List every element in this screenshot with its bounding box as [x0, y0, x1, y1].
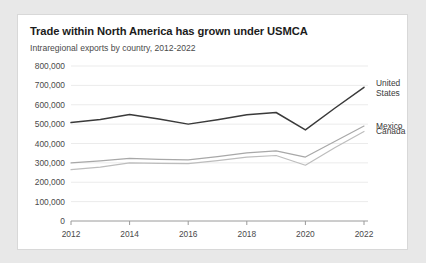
x-axis-tick-label: 2012 — [62, 229, 81, 239]
x-axis-tick-label: 2022 — [355, 229, 374, 239]
y-axis-tick-label: 800,000 — [35, 61, 66, 71]
series-label-united-states: States — [376, 88, 400, 98]
y-axis-tick-label: 100,000 — [35, 197, 66, 207]
series-label-united-states: United — [376, 78, 401, 88]
series-line-canada — [71, 131, 364, 169]
chart-plot-area: 0100,000200,000300,000400,000500,000600,… — [18, 15, 409, 251]
y-axis-tick-label: 200,000 — [35, 177, 66, 187]
x-axis-tick-label: 2014 — [120, 229, 139, 239]
y-axis-tick-label: 300,000 — [35, 158, 66, 168]
x-axis-tick-label: 2020 — [296, 229, 315, 239]
series-line-united-states — [71, 87, 364, 130]
x-axis-tick-label: 2018 — [237, 229, 256, 239]
y-axis-tick-label: 600,000 — [35, 100, 66, 110]
series-label-canada: Canada — [376, 126, 406, 136]
x-axis-tick-label: 2016 — [179, 229, 198, 239]
series-line-mexico — [71, 126, 364, 163]
y-axis-tick-label: 0 — [60, 216, 65, 226]
y-axis-tick-label: 400,000 — [35, 139, 66, 149]
y-axis-tick-label: 500,000 — [35, 119, 66, 129]
line-chart: 0100,000200,000300,000400,000500,000600,… — [18, 15, 409, 251]
chart-card: Trade within North America has grown und… — [17, 14, 408, 250]
y-axis-tick-label: 700,000 — [35, 80, 66, 90]
